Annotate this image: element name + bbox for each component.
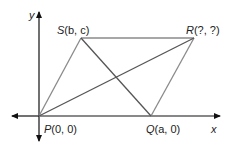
point-R-label: R(?, ?) (186, 24, 220, 36)
point-R-coords: (?, ?) (194, 24, 220, 36)
side-PS (39, 38, 81, 116)
point-Q-coords: (a, 0) (155, 123, 181, 135)
x-axis-label: x (210, 123, 217, 135)
point-P-coords: (0, 0) (51, 123, 77, 135)
diagonal-SQ (81, 38, 151, 116)
side-QR (151, 38, 194, 116)
point-Q-label: Q(a, 0) (146, 123, 180, 135)
point-R-letter: R (186, 24, 194, 36)
point-P-label: P(0, 0) (44, 123, 77, 135)
point-S-label: S(b, c) (57, 24, 89, 36)
point-S-coords: (b, c) (64, 24, 89, 36)
y-axis-label: y (28, 9, 36, 21)
parallelogram-diagram: y x S(b, c) R(?, ?) P(0, 0) Q(a, 0) (0, 0, 232, 145)
